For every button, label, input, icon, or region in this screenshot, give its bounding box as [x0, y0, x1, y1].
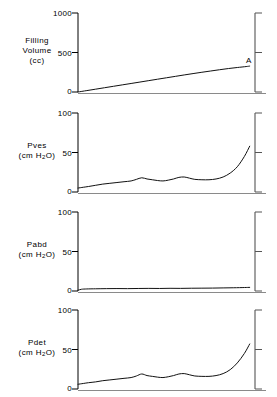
right-axis-spine [255, 113, 262, 192]
axis-label-line-1: Filling [0, 36, 74, 46]
ytick-label-pves-0: 0 [30, 188, 72, 196]
panel-pdet: Pdet (cm H2O) 100 50 0 [0, 297, 277, 397]
ytick-label-pves-100: 100 [30, 110, 72, 118]
trace-pdet [78, 344, 250, 384]
ytick-label-pdet-50: 50 [30, 347, 72, 355]
cystometrogram-figure: Filling Volume (cc) 1000 500 0 A Pves (c… [0, 0, 277, 397]
panel-pves: Pves (cm H2O) 100 50 0 [0, 100, 277, 200]
right-axis-spine [255, 212, 262, 291]
trace-filling-volume [78, 66, 250, 92]
trace-pves [78, 146, 250, 188]
trace-pabd [78, 287, 250, 290]
ytick-label-pabd-0: 0 [30, 287, 72, 295]
annotation-marker-a: A [246, 57, 251, 65]
ytick-label-pabd-50: 50 [30, 249, 72, 257]
ytick-label-filling-0: 0 [30, 88, 72, 96]
right-axis-spine [255, 13, 262, 92]
ytick-label-filling-1000: 1000 [30, 10, 72, 18]
ytick-label-filling-500: 500 [30, 50, 72, 58]
ytick-label-pabd-100: 100 [30, 209, 72, 217]
ytick-label-pdet-0: 0 [30, 385, 72, 393]
panel-filling-volume: Filling Volume (cc) 1000 500 0 A [0, 0, 277, 100]
right-axis-spine [255, 310, 262, 389]
ytick-label-pdet-100: 100 [30, 307, 72, 315]
panel-pabd: Pabd (cm H2O) 100 50 0 [0, 199, 277, 299]
ytick-label-pves-50: 50 [30, 150, 72, 158]
